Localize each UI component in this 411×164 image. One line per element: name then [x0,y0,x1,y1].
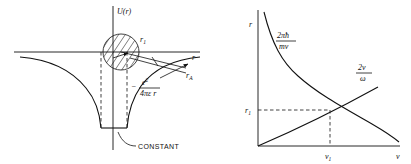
rise-curve-label: 2v ω [356,63,372,83]
constant-label: CONSTANT [138,143,180,150]
decay-label-denominator: mv [279,42,289,51]
right-y-axis-label: r [249,20,253,29]
figure-svg: U(r) r r1 [0,0,411,164]
hatched-circle [83,14,147,96]
coulomb-minus-sign: − [131,82,136,91]
left-panel: U(r) r r1 [14,6,200,150]
rise-label-numerator: 2v [358,63,366,72]
constant-leader-line [118,132,136,146]
coulomb-numerator: e2 [142,77,149,87]
right-x-axis-label: v [396,152,400,161]
rise-label-denominator: ω [360,74,366,83]
u-of-r-axis-label: U(r) [117,7,132,16]
ra-label: rA [186,71,193,81]
vector-line-upper [121,52,186,68]
v1-tick-label: v1 [325,152,332,162]
coulomb-curve-left [20,57,101,128]
r1-marker-label: r1 [140,35,146,45]
inner-arrow [113,53,128,58]
right-panel: r v 2πħ mv 2v ω r1 v1 [245,10,400,162]
figure-container: U(r) r r1 [0,0,411,164]
curve-rise [258,87,378,146]
r1-tick-label: r1 [245,106,251,116]
coulomb-curve-right [127,57,200,128]
coulomb-denominator: 4πε r [140,89,157,98]
decay-curve-label: 2πħ mv [276,31,296,51]
decay-label-numerator: 2πħ [277,31,289,40]
